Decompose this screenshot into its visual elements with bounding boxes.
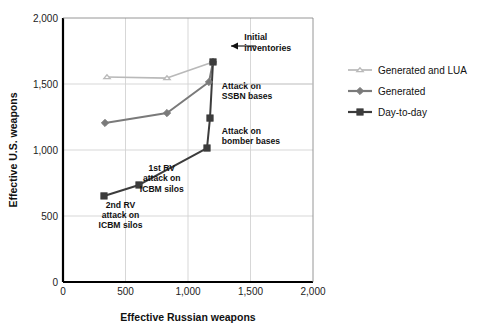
- annotation-line: attack on: [102, 210, 140, 220]
- marker-square: [210, 59, 216, 65]
- marker-diamond: [101, 119, 108, 126]
- x-tick-labels: 05001,0001,5002,000: [60, 286, 326, 297]
- marker-square: [204, 145, 210, 151]
- legend-item-label: Generated and LUA: [378, 65, 467, 76]
- x-tick-label: 2,000: [300, 286, 325, 297]
- annotation-line: SSBN bases: [222, 91, 273, 101]
- legend-item-label: Day-to-day: [378, 107, 427, 118]
- annotation-line: Attack on: [222, 81, 261, 91]
- legend: Generated and LUAGeneratedDay-to-day: [348, 65, 467, 118]
- annotation-initial-inventories: Initialinventories: [244, 32, 291, 52]
- y-axis-title: Effective U.S. weapons: [7, 92, 19, 207]
- series-generated: [105, 62, 213, 123]
- annotation-line: Attack on: [222, 126, 261, 136]
- legend-item-day-to-day[interactable]: Day-to-day: [348, 107, 427, 118]
- annotation-line: ICBM silos: [140, 184, 184, 194]
- y-tick-label: 2,000: [33, 13, 58, 24]
- marker-square: [101, 193, 107, 199]
- series-line: [105, 62, 213, 123]
- y-tick-label: 1,000: [33, 145, 58, 156]
- series-generated-and-lua: [107, 62, 213, 78]
- x-tick-label: 1,500: [238, 286, 263, 297]
- annotation-line: inventories: [244, 43, 291, 53]
- x-tick-label: 1,000: [175, 286, 200, 297]
- legend-item-generated[interactable]: Generated: [348, 86, 425, 97]
- series-line: [107, 62, 213, 78]
- annotation-line: ICBM silos: [99, 220, 143, 230]
- marker-square: [357, 109, 363, 115]
- chart-container: InitialinventoriesAttack onSSBN basesAtt…: [0, 0, 479, 333]
- marker-square: [207, 115, 213, 121]
- marker-triangle: [357, 68, 363, 72]
- chart-svg: InitialinventoriesAttack onSSBN basesAtt…: [0, 0, 479, 333]
- annotation-attack-on-bomber-bases: Attack onbomber bases: [222, 126, 280, 146]
- grid-lines: [63, 18, 313, 282]
- series-markers: [101, 58, 216, 126]
- y-tick-labels: 05001,0001,5002,000: [33, 13, 58, 288]
- marker-triangle: [164, 76, 170, 80]
- y-tick-label: 500: [41, 211, 58, 222]
- annotation-line: Initial: [244, 32, 267, 42]
- marker-diamond: [356, 87, 363, 94]
- annotation-line: bomber bases: [222, 136, 280, 146]
- x-axis-title: Effective Russian weapons: [120, 311, 256, 323]
- y-tick-label: 0: [52, 277, 58, 288]
- x-tick-label: 500: [117, 286, 134, 297]
- annotation-group: InitialinventoriesAttack onSSBN basesAtt…: [99, 32, 292, 230]
- legend-item-label: Generated: [378, 86, 425, 97]
- marker-triangle: [104, 75, 110, 79]
- legend-item-generated-and-lua[interactable]: Generated and LUA: [348, 65, 467, 76]
- annotation-first-rv-attack-on-icbm-silos: 1st RVattack onICBM silos: [140, 163, 184, 193]
- annotation-line: 1st RV: [148, 163, 175, 173]
- annotation-line: attack on: [143, 173, 181, 183]
- y-tick-label: 1,500: [33, 79, 58, 90]
- annotation-line: 2nd RV: [106, 200, 136, 210]
- x-tick-label: 0: [60, 286, 66, 297]
- annotation-second-rv-attack-on-icbm-silos: 2nd RVattack onICBM silos: [99, 200, 143, 230]
